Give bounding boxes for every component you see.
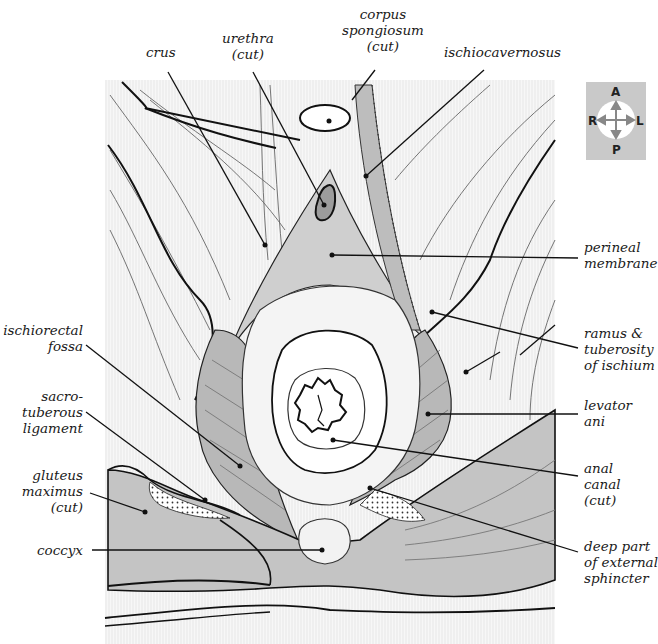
posterior-label: P <box>612 144 621 156</box>
label-perineal-membrane: perineal membrane <box>584 239 657 271</box>
orientation-compass: A P R L <box>586 82 646 160</box>
label-ischiorectal-fossa: ischiorectal fossa <box>3 322 83 354</box>
label-ischiocavernosus: ischiocavernosus <box>444 44 561 60</box>
label-ramus-tuberosity: ramus & tuberosity of ischium <box>584 325 655 373</box>
anterior-label: A <box>611 86 620 98</box>
label-anal-canal: anal canal (cut) <box>584 460 621 508</box>
label-levator-ani: levator ani <box>584 397 632 429</box>
right-label: R <box>588 115 597 127</box>
left-label: L <box>636 115 644 127</box>
label-sacrotuberous-ligament: sacro- tuberous ligament <box>22 388 83 436</box>
label-gluteus-maximus: gluteus maximus (cut) <box>22 467 83 515</box>
coccyx-bone <box>299 519 351 564</box>
label-urethra: urethra (cut) <box>222 30 274 62</box>
label-crus: crus <box>146 44 176 60</box>
label-coccyx: coccyx <box>37 542 83 558</box>
label-corpus-spongiosum: corpus spongiosum (cut) <box>342 6 424 54</box>
corpus-spongiosum-section <box>300 105 350 131</box>
label-deep-external-sphincter: deep part of external sphincter <box>584 538 658 586</box>
